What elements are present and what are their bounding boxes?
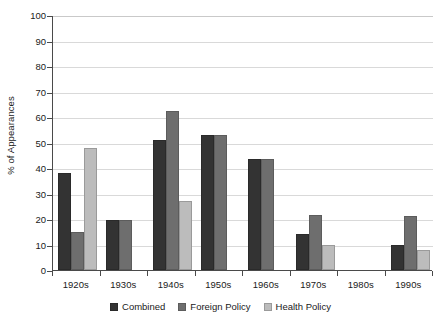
- y-tick-mark: [47, 169, 52, 170]
- y-tick-label: 60: [20, 113, 46, 123]
- x-tick-mark: [432, 271, 433, 276]
- y-tick-label: 80: [20, 62, 46, 72]
- gridline: [53, 169, 433, 170]
- bar-1990s-foreign: [404, 216, 417, 270]
- y-tick-label: 100: [20, 11, 46, 21]
- plot-area: [52, 16, 432, 271]
- y-tick-label: 30: [20, 190, 46, 200]
- y-tick-mark: [47, 93, 52, 94]
- bar-1920s-combined: [58, 173, 71, 270]
- gridline: [53, 42, 433, 43]
- y-tick-mark: [47, 246, 52, 247]
- legend-item-combined: Combined: [110, 301, 165, 312]
- bar-1970s-combined: [296, 234, 309, 270]
- bar-1990s-health: [417, 250, 430, 270]
- legend-item-foreign: Foreign Policy: [178, 301, 250, 312]
- x-tick-mark: [195, 271, 196, 276]
- bar-1940s-foreign: [166, 111, 179, 270]
- y-tick-mark: [47, 195, 52, 196]
- bar-1960s-combined: [248, 159, 261, 270]
- y-axis-title-label: % of Appearances: [5, 96, 16, 175]
- legend-swatch-combined-icon: [110, 303, 118, 311]
- legend-label: Foreign Policy: [190, 301, 250, 312]
- x-tick-mark: [385, 271, 386, 276]
- y-tick-mark: [47, 118, 52, 119]
- y-tick-mark: [47, 67, 52, 68]
- bar-1960s-foreign: [261, 159, 274, 270]
- bar-1990s-combined: [391, 245, 404, 271]
- y-tick-mark: [47, 220, 52, 221]
- y-tick-mark: [47, 16, 52, 17]
- bar-1950s-foreign: [214, 135, 227, 270]
- bar-1920s-health: [84, 148, 97, 270]
- x-tick-mark: [147, 271, 148, 276]
- y-tick-label: 70: [20, 88, 46, 98]
- y-axis-tick-labels: 1009080706050403020100: [18, 0, 46, 325]
- gridline: [53, 67, 433, 68]
- x-tick-mark: [242, 271, 243, 276]
- x-tick-mark: [52, 271, 53, 276]
- bar-1930s-combined: [106, 220, 119, 270]
- legend-label: Health Policy: [276, 301, 331, 312]
- y-tick-label: 90: [20, 37, 46, 47]
- y-tick-mark: [47, 42, 52, 43]
- x-tick-mark: [290, 271, 291, 276]
- bar-1970s-health: [322, 245, 335, 271]
- bar-1950s-combined: [201, 135, 214, 270]
- y-tick-label: 20: [20, 215, 46, 225]
- gridline: [53, 118, 433, 119]
- legend-swatch-foreign-icon: [178, 303, 186, 311]
- y-tick-label: 0: [20, 266, 46, 276]
- y-tick-label: 10: [20, 241, 46, 251]
- y-tick-mark: [47, 144, 52, 145]
- x-tick-mark: [337, 271, 338, 276]
- bar-1920s-foreign: [71, 232, 84, 270]
- x-tick-mark: [100, 271, 101, 276]
- gridline: [53, 144, 433, 145]
- legend-swatch-health-icon: [264, 303, 272, 311]
- legend-item-health: Health Policy: [264, 301, 331, 312]
- legend-label: Combined: [122, 301, 165, 312]
- bar-1940s-combined: [153, 140, 166, 270]
- y-tick-label: 40: [20, 164, 46, 174]
- bar-chart: % of Appearances 1009080706050403020100 …: [0, 0, 441, 325]
- y-tick-label: 50: [20, 139, 46, 149]
- gridline: [53, 16, 433, 17]
- x-tick-label-1990s: 1990s: [378, 280, 438, 290]
- bar-1930s-foreign: [119, 220, 132, 270]
- bar-1940s-health: [179, 201, 192, 270]
- y-axis-title: % of Appearances: [0, 0, 20, 271]
- gridline: [53, 195, 433, 196]
- gridline: [53, 93, 433, 94]
- bar-1970s-foreign: [309, 215, 322, 270]
- chart-legend: CombinedForeign PolicyHealth Policy: [0, 301, 441, 312]
